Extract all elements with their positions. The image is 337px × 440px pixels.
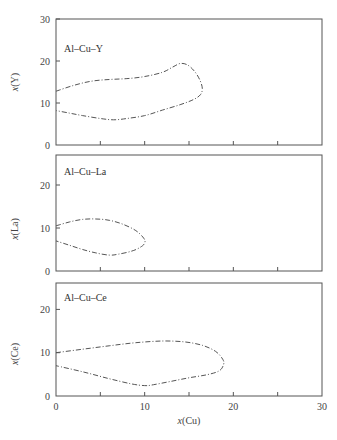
- y-tick-label: 0: [45, 140, 50, 151]
- y-axis-label: x(Y): [9, 73, 21, 92]
- y-tick-label: 10: [40, 98, 50, 109]
- y-tick-label: 20: [40, 304, 50, 315]
- x-ticks: [100, 267, 277, 271]
- plot-frame: [56, 19, 322, 145]
- x-tick-labels: 0102030: [54, 401, 328, 412]
- panel-label: Al–Cu–Y: [64, 43, 103, 54]
- x-axis-label: x(Cu): [177, 415, 201, 427]
- x-ticks: [100, 392, 277, 396]
- panel-al-cu-ce: 01020 Al–Cu–Ce x(Ce) 0102030 x(Cu): [9, 283, 327, 427]
- boundary-curve: [56, 219, 145, 255]
- y-axis-label: x(Ce): [9, 343, 21, 366]
- boundary-curve: [56, 341, 224, 386]
- y-tick-label: 20: [40, 180, 50, 191]
- y-tick-label: 10: [40, 223, 50, 234]
- y-ticks: 01020: [40, 180, 60, 277]
- y-tick-label: 30: [40, 14, 50, 25]
- panel-al-cu-y: 0102030 Al–Cu–Y x(Y): [9, 14, 322, 151]
- boundary-curve: [56, 63, 202, 119]
- y-axis-label: x(La): [9, 218, 21, 241]
- panel-al-cu-la: 01020 Al–Cu–La x(La): [9, 155, 322, 277]
- y-tick-label: 0: [45, 266, 50, 277]
- y-ticks: 0102030: [40, 14, 60, 151]
- x-ticks: [100, 141, 277, 145]
- y-tick-label: 10: [40, 347, 50, 358]
- x-tick-label: 20: [228, 401, 238, 412]
- panel-label: Al–Cu–Ce: [64, 292, 107, 303]
- panel-label: Al–Cu–La: [64, 166, 107, 177]
- phase-diagram-figure: 0102030 Al–Cu–Y x(Y) 01020 Al–Cu–La x(La…: [0, 0, 337, 440]
- y-tick-label: 0: [45, 391, 50, 402]
- x-tick-label: 30: [317, 401, 327, 412]
- x-tick-label: 0: [54, 401, 59, 412]
- x-tick-label: 10: [140, 401, 150, 412]
- y-tick-label: 20: [40, 56, 50, 67]
